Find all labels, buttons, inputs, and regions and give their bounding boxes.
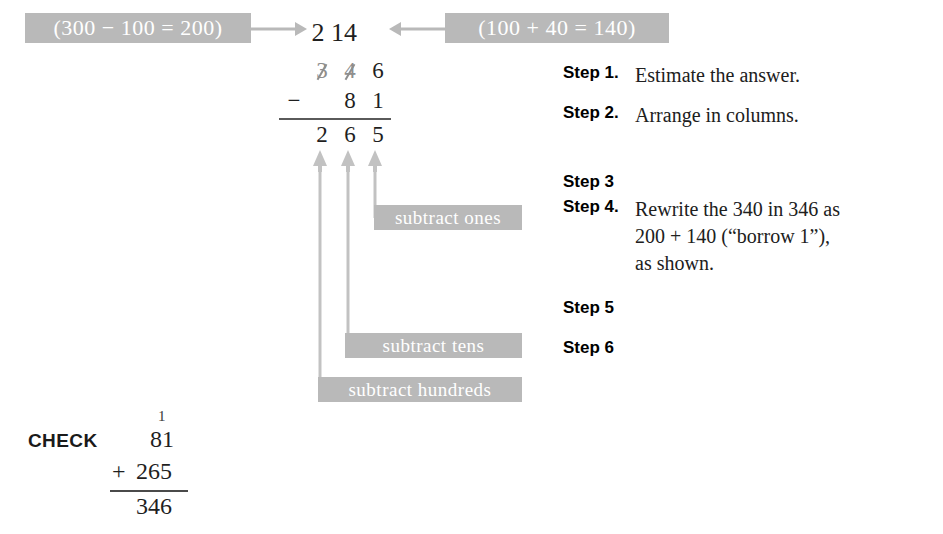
step-1-label: Step 1. [563,62,635,85]
subtrahend-ones-digit: 1 [367,88,389,114]
step-4-label: Step 4. [563,196,635,219]
step-1-text: Estimate the answer. [635,62,800,89]
step-4-line-3: as shown. [635,250,840,277]
step-item-6: Step 6 [563,337,938,360]
check-addend-2: 265 [136,458,172,485]
step-6-label: Step 6 [563,337,635,360]
regroup-hundreds-digit: 2 [307,18,329,48]
callout-subtract-tens: subtract tens [345,333,522,358]
worksheet-page: (300 − 100 = 200) (100 + 40 = 140) 2 14 … [0,0,943,534]
problem-rule [279,118,391,120]
subtrahend-tens-digit: 8 [339,88,361,114]
step-4-line-2: 200 + 140 (“borrow 1”), [635,223,840,250]
regroup-tens-digit: 14 [327,18,361,48]
difference-ones-digit: 5 [367,122,389,148]
subtraction-operator: − [283,88,305,114]
step-5-label: Step 5 [563,297,635,320]
step-2-label: Step 2. [563,102,635,125]
check-addend-1: 81 [150,426,174,453]
callout-estimate-hundreds: (300 − 100 = 200) [25,13,251,43]
step-3-label: Step 3 [563,171,635,194]
difference-tens-digit: 6 [339,122,361,148]
step-item-2: Step 2. Arrange in columns. [563,102,938,129]
minuend-ones-digit: 6 [367,58,389,84]
step-item-4: Step 4. Rewrite the 340 in 346 as 200 + … [563,196,938,277]
steps-list: Step 1. Estimate the answer. Step 2. Arr… [563,62,938,373]
subtraction-problem: 2 14 3 4 6 − 8 1 2 6 5 [255,8,425,168]
step-4-line-1: Rewrite the 340 in 346 as [635,198,840,220]
step-item-5: Step 5 [563,297,938,320]
check-carry-digit: 1 [158,408,166,425]
step-2-text: Arrange in columns. [635,102,799,129]
check-operator: + [112,458,126,485]
callout-estimate-tens: (100 + 40 = 140) [445,13,669,43]
check-sum: 346 [136,493,172,520]
step-item-1: Step 1. Estimate the answer. [563,62,938,89]
callout-subtract-hundreds: subtract hundreds [318,377,522,402]
step-item-3: Step 3 [563,171,938,194]
check-label: CHECK [28,430,98,452]
difference-hundreds-digit: 2 [311,122,333,148]
callout-subtract-ones: subtract ones [374,205,522,230]
step-4-text: Rewrite the 340 in 346 as 200 + 140 (“bo… [635,196,840,277]
check-section: CHECK 1 81 + 265 346 [28,408,318,528]
check-rule [110,490,188,492]
